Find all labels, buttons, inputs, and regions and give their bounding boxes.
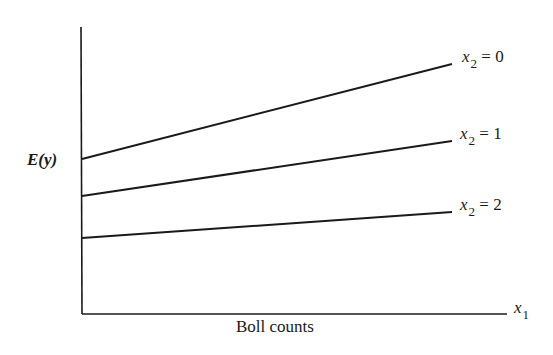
series-label-x2-2: x2 = 2	[460, 195, 502, 215]
series-line-2	[82, 212, 452, 238]
series-line-1	[82, 141, 452, 196]
x-axis-label: Boll counts	[236, 317, 314, 337]
y-axis	[81, 27, 82, 314]
y-axis-label: E(y)	[27, 150, 57, 170]
series-label-x2-0: x2 = 0	[462, 47, 504, 67]
series-line-0	[82, 64, 452, 159]
x-axis-symbol: x1	[514, 298, 529, 318]
series-label-x2-1: x2 = 1	[460, 124, 502, 144]
